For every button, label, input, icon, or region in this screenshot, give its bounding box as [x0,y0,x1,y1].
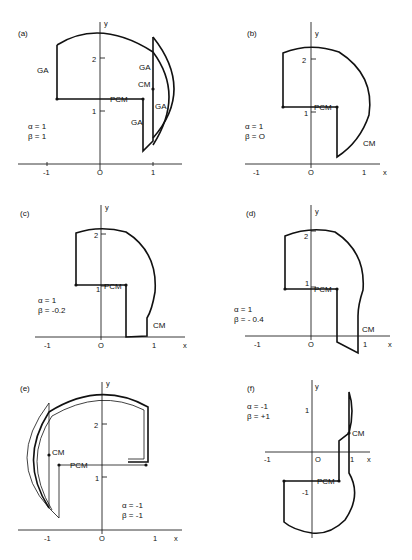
panel-label-c: (c) [20,209,30,218]
panel-label-e: (e) [20,384,30,393]
x-axis-label-f: x [367,455,371,464]
x-tick-b-neg1: -1 [253,168,260,177]
panel-label-d: (d) [246,209,256,218]
param-c-alpha: α = 1 [38,296,57,305]
x-tick-f-neg1: -1 [264,455,271,464]
x-tick-c-neg1: -1 [44,341,51,350]
trajectory-f-upper [339,392,352,481]
x-tick-b-0: O [308,168,314,177]
param-b-beta: β = O [245,132,265,141]
trajectory-e-vertical [49,403,59,518]
x-tick-d-neg1: -1 [254,340,261,349]
param-a-beta: β = 1 [28,132,47,141]
panel-c: (c) y x -1 O 1 2 1 PCM CM α = 1 β = -0.2 [20,203,187,350]
param-d-alpha: α = 1 [234,305,253,314]
y-axis-label-f: y [315,382,319,391]
y-tick-b-1: 1 [304,109,308,118]
x-tick-a-neg1: -1 [43,168,50,177]
x-tick-b-1: 1 [362,168,366,177]
y-axis-label-c: y [105,203,109,212]
y-tick-a-1: 1 [92,107,96,116]
annotation-e-pcm: PCM [70,461,88,470]
x-tick-e-neg1: -1 [44,534,51,543]
panel-label-b: (b) [247,29,257,38]
y-axis-label-d: y [315,207,319,216]
y-tick-f-neg1: -1 [302,488,309,497]
trajectory-a-right [143,37,153,151]
y-tick-d-1: 1 [305,279,309,288]
y-axis-label-a: y [104,19,108,28]
annotation-d-pcm: PCM [314,285,332,294]
y-tick-e-2: 2 [94,421,98,430]
param-f-alpha: α = -1 [247,402,268,411]
y-tick-c-2: 2 [94,231,98,240]
panel-d: (d) y x -1 O 1 2 1 PCM CM α = 1 β = - 0.… [234,205,392,353]
panel-label-a: (a) [18,29,28,38]
annotation-f-cm: CM [352,429,365,438]
annotation-a-ga-1: GA [37,66,49,75]
panel-e: (e) y x -1 O 1 2 1 CM PCM α = -1 β = -1 [18,379,182,543]
x-axis-label-c: x [183,341,187,350]
x-tick-c-0: O [98,341,104,350]
x-tick-e-0: O [99,534,105,543]
annotation-c-cm: CM [153,321,166,330]
x-tick-a-0: O [97,168,103,177]
param-d-beta: β = - 0.4 [234,315,264,324]
annotation-f-pcm: PCM [317,477,335,486]
x-tick-c-1: 1 [152,341,156,350]
x-axis-label-d: x [388,340,392,349]
arc-e-inner-thick [34,395,149,508]
param-a-alpha: α = 1 [28,122,47,131]
annotation-a-pcm: PCM [110,95,128,104]
x-axis-label-e: x [174,534,178,543]
figure: (a) y -1 O 1 2 1 GA GA CM PCM GA GA α = … [0,0,412,560]
annotation-a-ga-3: GA [155,102,167,111]
x-tick-d-0: O [308,340,314,349]
y-tick-d-2: 2 [304,232,308,241]
param-e-beta: β = -1 [122,511,143,520]
x-tick-f-1: 1 [350,455,354,464]
x-tick-f-0: O [315,455,321,464]
annotation-c-pcm: PCM [104,282,122,291]
y-axis-label-e: y [106,379,110,388]
panel-a: (a) y -1 O 1 2 1 GA GA CM PCM GA GA α = … [18,19,182,177]
panel-b: (b) y x -1 O 1 2 1 PCM CM α = 1 β = O [245,22,387,177]
trajectory-a-top [57,33,153,52]
annotation-b-pcm: PCM [314,103,332,112]
panel-label-f: (f) [247,384,255,393]
param-e-alpha: α = -1 [122,501,143,510]
param-b-alpha: α = 1 [245,122,264,131]
panel-f: (f) y x -1 O 1 1 -1 CM PCM α = -1 β = +1 [247,380,371,538]
annotation-a-ga-2: GA [139,63,151,72]
x-tick-a-1: 1 [151,168,155,177]
annotation-a-ga-4: GA [131,118,143,127]
y-tick-b-2: 2 [302,56,306,65]
x-tick-e-1: 1 [153,534,157,543]
arc-a-inner [153,52,169,145]
y-tick-f-1: 1 [305,406,309,415]
param-c-beta: β = -0.2 [38,306,66,315]
y-tick-c-1: 1 [96,285,100,294]
annotation-b-cm: CM [363,139,376,148]
param-f-beta: β = +1 [247,412,270,421]
annotation-d-cm: CM [362,325,375,334]
y-tick-e-1: 1 [95,474,99,483]
annotation-a-cm: CM [138,80,151,89]
y-axis-label-b: y [315,29,319,38]
y-tick-a-2: 2 [92,55,96,64]
x-axis-label-b: x [383,168,387,177]
x-tick-d-1: 1 [363,340,367,349]
annotation-e-cm: CM [52,448,65,457]
